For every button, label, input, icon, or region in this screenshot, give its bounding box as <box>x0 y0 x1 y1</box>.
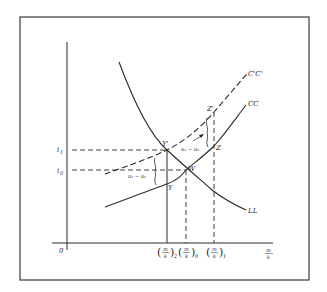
svg-text:k: k <box>185 253 188 259</box>
point-y: Y <box>168 184 174 192</box>
gap-right-label: π₁ − π₂ <box>180 146 199 152</box>
svg-text:(: ( <box>206 246 210 259</box>
svg-text:2: 2 <box>173 253 177 259</box>
svg-text:(: ( <box>157 246 161 259</box>
svg-text:m: m <box>163 246 168 252</box>
left-brace <box>154 158 156 185</box>
tick-mk0: ( m k ) 0 <box>178 246 199 259</box>
i0-sub: 0 <box>60 170 64 176</box>
svg-text:1: 1 <box>223 253 226 259</box>
i0-label: i <box>57 167 59 175</box>
svg-text:(: ( <box>178 246 182 259</box>
gap-left-label: π₁ − π₂ <box>127 173 146 179</box>
origin-label: 0 <box>59 247 64 255</box>
right-brace <box>206 118 208 147</box>
svg-text:k: k <box>164 253 167 259</box>
x-axis-label-den: k <box>267 254 270 260</box>
cprime-label: C'C' <box>248 70 263 78</box>
svg-text:k: k <box>213 253 216 259</box>
x-axis-label-num: m <box>266 247 271 253</box>
cprime-curve <box>105 74 247 174</box>
tick-mk1: ( m k ) 1 <box>206 246 226 259</box>
point-z-prime: Z' <box>206 105 214 113</box>
i1-label: i <box>57 146 59 154</box>
svg-text:m: m <box>212 246 217 252</box>
cc-curve <box>105 105 246 207</box>
ll-label: LL <box>247 207 258 215</box>
ll-curve <box>119 62 246 210</box>
svg-text:m: m <box>184 246 189 252</box>
cc-label: CC <box>248 100 259 108</box>
economics-diagram: 0 m k i 1 i 0 LL CC C'C' Y' W Y Z' Z π₁ … <box>0 0 327 292</box>
tick-mk2: ( m k ) 2 <box>157 246 177 259</box>
diagram-frame <box>20 17 309 280</box>
svg-text:0: 0 <box>195 253 199 259</box>
i1-sub: 1 <box>60 149 63 155</box>
point-z: Z <box>215 144 221 152</box>
point-y-prime: Y' <box>162 140 169 148</box>
point-w: W <box>188 165 196 173</box>
arrowhead-icon <box>199 134 204 138</box>
